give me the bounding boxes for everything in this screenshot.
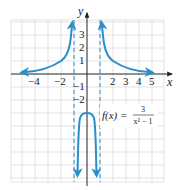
y-axis-label: y: [77, 4, 84, 18]
y-tick-label: 3: [79, 28, 85, 40]
x-axis-label: x: [166, 75, 173, 89]
x-tick-label: −2: [54, 75, 66, 87]
y-tick-label: 1: [79, 54, 85, 66]
x-tick-label: 3: [123, 75, 129, 87]
function-label: f(x) = 3 x² − 1: [100, 104, 158, 128]
x-tick-label: 5: [149, 75, 155, 87]
y-tick-label: −2: [73, 93, 85, 105]
function-graph: −4 −2 2 3 4 5 3 2 1 −1 −2 y x f(x) = 3 x…: [0, 0, 177, 190]
y-tick-labels: 3 2 1 −1 −2: [73, 28, 85, 105]
x-tick-label: 2: [110, 75, 116, 87]
function-denominator: x² − 1: [134, 117, 153, 126]
x-tick-label: −4: [28, 75, 40, 87]
y-tick-label: −1: [73, 80, 85, 92]
x-tick-labels: −4 −2 2 3 4 5: [28, 75, 155, 87]
function-numerator: 3: [141, 105, 145, 114]
x-tick-label: 4: [136, 75, 142, 87]
y-tick-label: 2: [79, 41, 85, 53]
function-lhs: f(x) =: [102, 109, 127, 122]
